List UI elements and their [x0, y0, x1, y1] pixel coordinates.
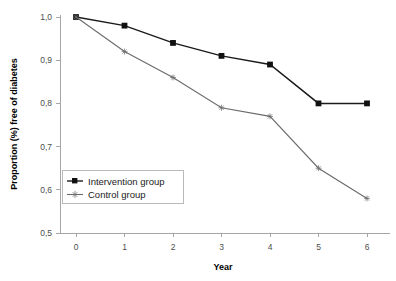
x-tick-label: 1 — [122, 242, 127, 252]
y-axis-title: Proportion (%) free of diabetes — [9, 58, 19, 190]
data-point-star — [170, 74, 176, 80]
data-point-star — [364, 195, 370, 201]
data-point-square — [170, 40, 176, 46]
data-point-star — [316, 165, 322, 171]
line-chart: 1,0 0,9 0,8 0,7 0,6 0,5 — [0, 0, 396, 281]
x-tick-label: 4 — [268, 242, 273, 252]
data-point-square — [316, 101, 322, 107]
data-point-star — [219, 105, 225, 111]
x-tick-label: 3 — [219, 242, 224, 252]
legend: Intervention group Control group — [62, 170, 183, 203]
x-tick-label: 2 — [171, 242, 176, 252]
x-tick-label: 5 — [316, 242, 321, 252]
y-axis-tick-labels: 1,0 0,9 0,8 0,7 0,6 0,5 — [40, 12, 52, 238]
y-tick-label: 0,7 — [40, 142, 52, 152]
data-point-star — [267, 113, 273, 119]
data-point-star — [73, 14, 79, 20]
square-marker-icon — [72, 178, 77, 183]
x-tick-label: 6 — [365, 242, 370, 252]
legend-label: Intervention group — [88, 176, 165, 187]
data-point-square — [267, 62, 273, 68]
legend-label: Control group — [88, 189, 146, 200]
x-tick-label: 0 — [74, 242, 79, 252]
data-point-square — [364, 101, 370, 107]
y-tick-label: 0,8 — [40, 98, 52, 108]
y-axis-ticks — [56, 17, 60, 233]
series-line-square — [76, 17, 367, 103]
x-axis-tick-labels: 0 1 2 3 4 5 6 — [74, 242, 370, 252]
y-tick-label: 0,6 — [40, 185, 52, 195]
y-tick-label: 0,5 — [40, 228, 52, 238]
x-axis-ticks — [76, 233, 367, 237]
data-point-star — [122, 49, 128, 55]
y-tick-label: 0,9 — [40, 55, 52, 65]
y-tick-label: 1,0 — [40, 12, 52, 22]
chart-container: 1,0 0,9 0,8 0,7 0,6 0,5 — [0, 0, 396, 281]
data-point-square — [219, 53, 225, 59]
data-point-square — [122, 23, 128, 29]
x-axis-title: Year — [213, 262, 233, 272]
